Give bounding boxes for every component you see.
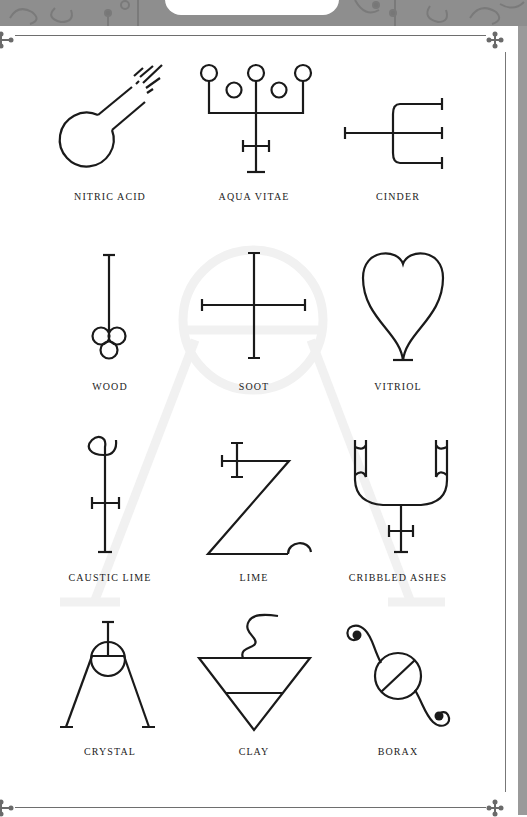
clay-symbol-icon <box>179 608 329 748</box>
symbol-card-cribbled-ashes: CRIBBLED ASHES <box>323 425 473 600</box>
aqua-vitae-symbol-icon <box>179 50 329 190</box>
symbol-card-soot: SOOT <box>179 238 329 413</box>
symbol-label: CRIBBLED ASHES <box>323 572 473 583</box>
borax-symbol-icon <box>323 608 473 748</box>
symbol-card-wood: WOOD <box>35 238 185 413</box>
crystal-symbol-icon <box>35 608 185 748</box>
symbol-card-clay: CLAY <box>179 608 329 783</box>
symbol-label: WOOD <box>35 381 185 392</box>
page-edge-strip <box>518 26 527 815</box>
corner-fleur-icon <box>0 31 16 49</box>
nitric-acid-symbol-icon <box>35 50 185 190</box>
frame-line-top <box>15 35 486 36</box>
vitriol-symbol-icon <box>323 238 473 378</box>
lime-symbol-icon <box>179 425 329 565</box>
corner-fleur-icon <box>486 799 504 817</box>
symbol-label: CAUSTIC LIME <box>35 572 185 583</box>
symbol-label: SOOT <box>179 381 329 392</box>
symbol-card-vitriol: VITRIOL <box>323 238 473 413</box>
symbol-card-borax: BORAX <box>323 608 473 783</box>
frame-line-right <box>505 52 506 792</box>
symbol-label: CRYSTAL <box>35 746 185 757</box>
wood-symbol-icon <box>35 238 185 378</box>
frame-line-bottom <box>15 807 486 808</box>
symbol-label: AQUA VITAE <box>179 191 329 202</box>
caustic-lime-symbol-icon <box>35 425 185 565</box>
symbol-card-crystal: CRYSTAL <box>35 608 185 783</box>
soot-symbol-icon <box>179 238 329 378</box>
symbol-card-aqua-vitae: AQUA VITAE <box>179 50 329 225</box>
header-decorative-band: ALCHEMICAL SYMBOLS <box>0 0 527 26</box>
symbol-label: NITRIC ACID <box>35 191 185 202</box>
symbol-label: VITRIOL <box>323 381 473 392</box>
symbol-card-cinder: CINDER <box>323 50 473 225</box>
header-tab: ALCHEMICAL SYMBOLS <box>165 0 339 15</box>
symbol-label: LIME <box>179 572 329 583</box>
symbol-card-lime: LIME <box>179 425 329 600</box>
corner-fleur-icon <box>0 799 16 817</box>
symbol-label: CINDER <box>323 191 473 202</box>
cribbled-ashes-symbol-icon <box>323 425 473 565</box>
symbol-card-caustic-lime: CAUSTIC LIME <box>35 425 185 600</box>
cinder-symbol-icon <box>323 50 473 190</box>
corner-fleur-icon <box>486 31 504 49</box>
symbol-card-nitric-acid: NITRIC ACID <box>35 50 185 225</box>
symbol-label: CLAY <box>179 746 329 757</box>
symbol-label: BORAX <box>323 746 473 757</box>
